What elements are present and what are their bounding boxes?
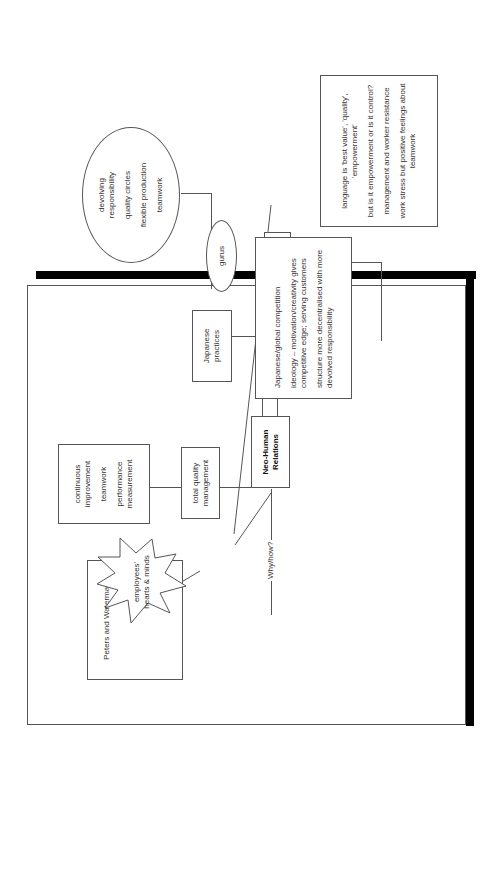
starburst xyxy=(0,0,498,891)
diagram-stage: devolvingresponsibility quality circles … xyxy=(0,0,498,891)
starburst-text: employees'hearts & minds xyxy=(132,550,152,614)
whyhow-details-box: Japanese/global competition ideology – m… xyxy=(255,237,352,399)
